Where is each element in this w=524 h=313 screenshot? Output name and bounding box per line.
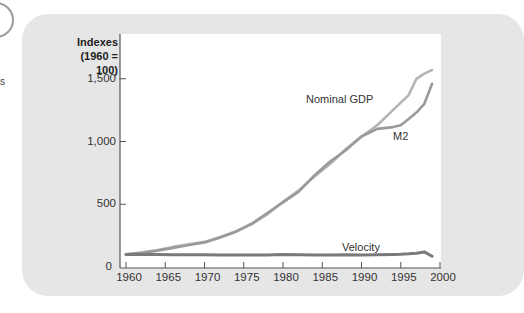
nominal-gdp-line xyxy=(126,70,432,254)
velocity-line xyxy=(126,252,432,256)
series-label-m2: M2 xyxy=(393,130,408,142)
m2-line xyxy=(126,84,432,255)
series-label-nominal-gdp: Nominal GDP xyxy=(306,93,373,105)
series-label-velocity: Velocity xyxy=(342,241,380,253)
